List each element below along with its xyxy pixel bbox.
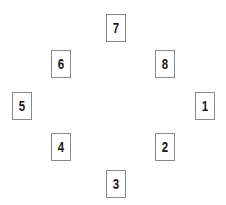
node-label-1: 1 [202, 99, 208, 113]
node-label-5: 5 [19, 99, 25, 113]
node-box-3[interactable]: 3 [106, 170, 126, 198]
node-label-3: 3 [113, 177, 119, 191]
node-label-2: 2 [162, 140, 168, 154]
node-label-7: 7 [113, 21, 119, 35]
node-label-4: 4 [58, 140, 64, 154]
circular-number-diagram: 7 8 1 2 3 4 5 6 [0, 0, 226, 205]
node-box-7[interactable]: 7 [106, 14, 126, 42]
node-box-4[interactable]: 4 [51, 133, 71, 161]
node-box-1[interactable]: 1 [195, 92, 215, 120]
node-box-8[interactable]: 8 [155, 50, 175, 78]
node-label-8: 8 [162, 57, 168, 71]
node-label-6: 6 [58, 57, 64, 71]
node-box-6[interactable]: 6 [51, 50, 71, 78]
node-box-5[interactable]: 5 [12, 92, 32, 120]
node-box-2[interactable]: 2 [155, 133, 175, 161]
